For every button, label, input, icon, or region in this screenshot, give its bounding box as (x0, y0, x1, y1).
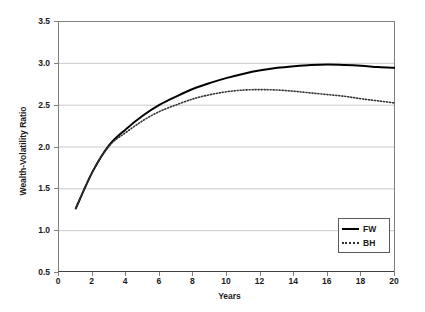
legend-item-fw: FW (342, 223, 376, 235)
x-axis-title: Years (0, 291, 425, 301)
x-axis-tick-label: 0 (43, 276, 73, 286)
x-axis-tick-label: 2 (77, 276, 107, 286)
x-axis-tick-label: 10 (211, 276, 241, 286)
x-axis-tick-label: 12 (245, 276, 275, 286)
x-axis-tick-label: 4 (110, 276, 140, 286)
y-axis-tick (54, 63, 58, 64)
x-axis-tick-label: 20 (379, 276, 409, 286)
legend-label-bh: BH (363, 239, 375, 248)
chart-container: 0.51.01.52.02.53.03.5 02468101214161820 … (0, 0, 425, 312)
legend-swatch-dotted-icon (342, 239, 359, 247)
x-axis-tick-label: 6 (144, 276, 174, 286)
y-axis-tick (54, 21, 58, 22)
series-line-fw (76, 65, 395, 209)
y-axis-tick-label: 1.5 (10, 183, 50, 193)
legend-label-fw: FW (363, 225, 376, 234)
y-axis-tick-label: 1.0 (10, 225, 50, 235)
series-line-bh (76, 90, 395, 209)
series-lines-group (76, 65, 395, 209)
x-axis-tick-label: 16 (312, 276, 342, 286)
y-axis-tick-label: 3.0 (10, 58, 50, 68)
x-axis-tick-label: 8 (177, 276, 207, 286)
y-axis-tick (54, 105, 58, 106)
y-axis-tick-label: 2.5 (10, 100, 50, 110)
y-axis-tick (54, 147, 58, 148)
chart-legend: FW BH (338, 218, 390, 253)
y-axis-tick-label: 3.5 (10, 16, 50, 26)
legend-swatch-solid-icon (342, 225, 359, 233)
x-axis-tick-label: 18 (345, 276, 375, 286)
y-axis-title: Wealth-Volatility Ratio (18, 81, 28, 221)
y-axis-tick (54, 188, 58, 189)
y-axis-tick-label: 2.0 (10, 142, 50, 152)
x-axis-tick-label: 14 (278, 276, 308, 286)
y-axis-tick (54, 230, 58, 231)
legend-item-bh: BH (342, 237, 375, 249)
